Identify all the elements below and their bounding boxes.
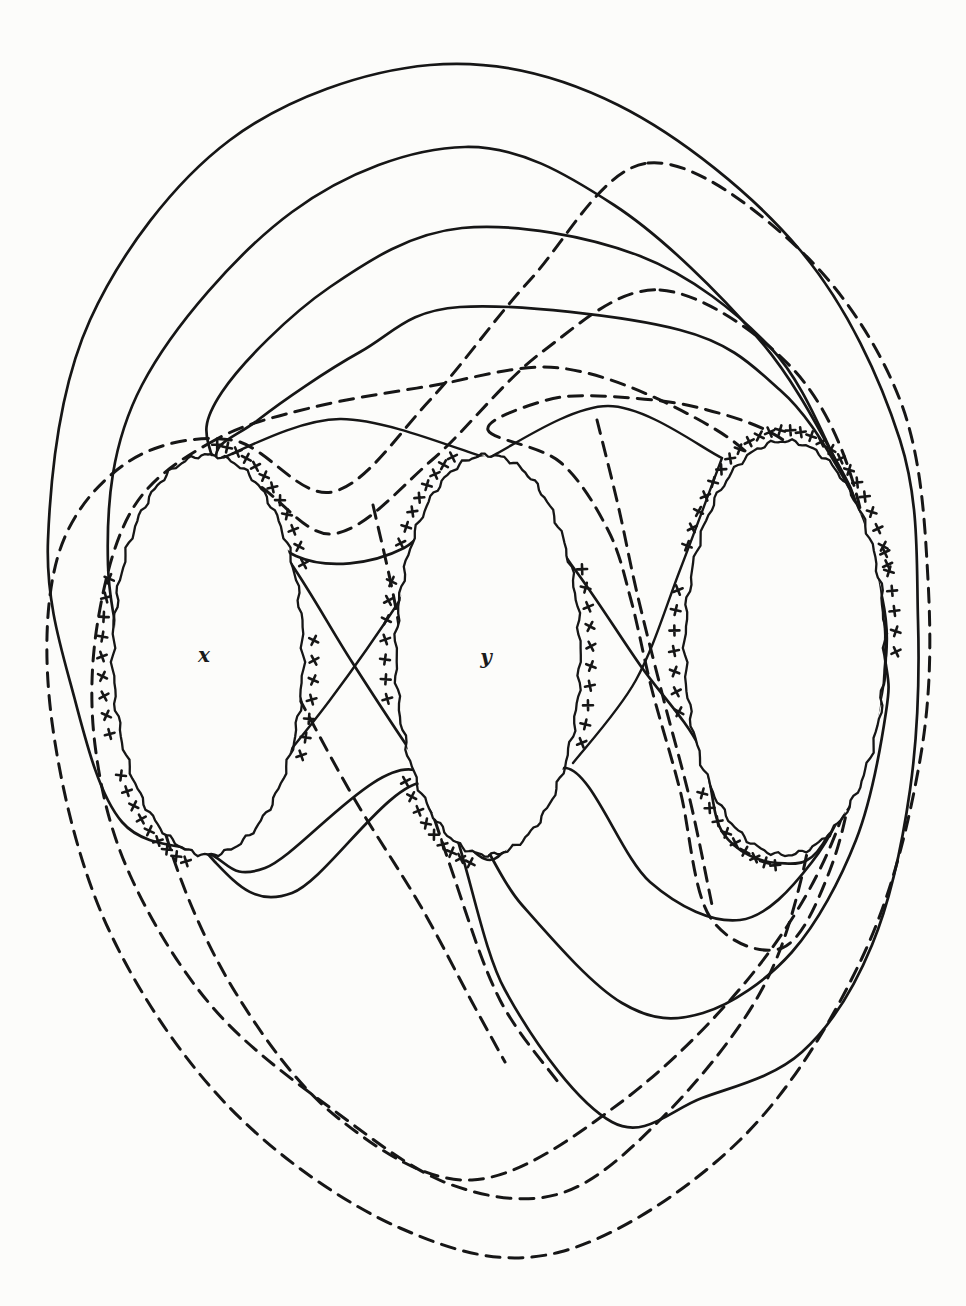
plus-marker (871, 522, 884, 535)
plus-marker (300, 732, 311, 743)
plus-marker (428, 467, 441, 480)
plus-marker (135, 812, 149, 826)
plus-marker (380, 674, 391, 685)
plus-marker (414, 492, 425, 503)
plus-marker (104, 728, 116, 740)
plus-marker (582, 600, 595, 613)
plus-marker (889, 625, 902, 638)
plus-marker (584, 680, 596, 692)
plus-marker (97, 689, 111, 703)
plus-marker (712, 815, 723, 826)
plus-marker (669, 625, 679, 635)
plus-marker (143, 824, 156, 837)
hole-x-label: x (197, 643, 211, 667)
plus-marker (305, 693, 317, 705)
plus-marker (707, 476, 719, 488)
plus-marker (287, 523, 300, 536)
plus-marker (859, 491, 870, 502)
plus-marker (889, 645, 902, 658)
plus-marker (420, 818, 432, 830)
plus-marker (889, 605, 900, 616)
plus-marker (584, 639, 597, 652)
plus-marker (743, 435, 756, 448)
plus-marker (668, 665, 681, 678)
plus-marker (696, 787, 708, 799)
plus-marker (400, 520, 413, 533)
scanned-figure-page: x y (0, 0, 966, 1306)
plus-marker (405, 790, 418, 803)
plus-marker (795, 427, 806, 438)
plus-marker (668, 645, 680, 657)
plus-marker (275, 495, 285, 505)
plus-marker (763, 425, 776, 438)
plus-marker (121, 785, 134, 798)
hole-rims (111, 439, 887, 857)
plus-marker (307, 673, 320, 686)
plus-marker (407, 506, 418, 517)
plus-marker (379, 633, 392, 646)
plus-marker (584, 660, 597, 673)
bridge-arc-1 (215, 419, 487, 461)
plus-marker (583, 620, 597, 634)
plus-marker (115, 770, 126, 781)
plus-marker (753, 429, 767, 443)
plus-marker (670, 685, 683, 698)
hole-y-label: y (479, 645, 493, 669)
plus-marker (97, 631, 109, 643)
plus-marker (887, 585, 898, 596)
plus-marker (295, 749, 308, 762)
plus-marker (446, 450, 459, 463)
plus-marker (437, 838, 449, 850)
plus-marker (381, 693, 393, 705)
plus-marker (307, 634, 320, 647)
figure-canvas: x y (0, 0, 966, 1306)
plus-marker (96, 670, 109, 683)
plus-marker (724, 453, 735, 464)
plus-marker (281, 509, 293, 521)
plus-marker (670, 604, 682, 616)
plus-marker (583, 700, 593, 710)
plus-marker (307, 653, 321, 667)
plus-marker (865, 506, 877, 518)
plus-marker (412, 804, 425, 817)
plus-marker (292, 540, 305, 553)
plus-marker (421, 479, 433, 491)
plus-marker (127, 799, 140, 812)
plus-marker (96, 650, 109, 663)
plus-marker (579, 718, 591, 730)
plus-marker (759, 856, 771, 868)
plus-marker (152, 835, 164, 847)
plus-marker (258, 470, 271, 483)
hole-fill-z (686, 442, 884, 854)
plus-marker (379, 654, 390, 665)
plus-marker (240, 452, 253, 465)
plus-marker (100, 709, 113, 722)
plus-marker (785, 425, 796, 436)
